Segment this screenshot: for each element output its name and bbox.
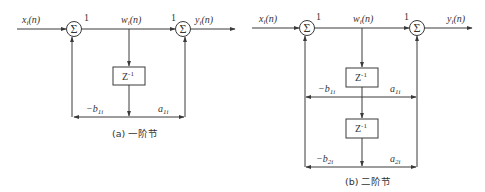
gain-left-a: 1 <box>84 12 89 23</box>
sum-symbol-2-a: Σ <box>180 22 187 36</box>
mid-label-b: wi(n) <box>353 13 374 26</box>
coef-a2-b: a2i <box>390 153 401 166</box>
sum-symbol-1-a: Σ <box>71 22 78 36</box>
first-order-section: xi(n) Σ 1 wi(n) 1 Σ yi(n) Z-1 −b1i a1i (… <box>17 12 235 139</box>
output-label-a: yi(n) <box>194 14 214 27</box>
gain-right-b: 1 <box>404 11 409 22</box>
coef-b2-b: −b2i <box>316 153 333 166</box>
caption-a: (a) 一阶节 <box>112 128 158 139</box>
coef-a1-b: a1i <box>390 83 401 96</box>
sum-symbol-1-b: Σ <box>304 21 311 35</box>
gain-right-a: 1 <box>171 12 176 23</box>
input-label-b: xi(n) <box>258 13 278 26</box>
coef-a-a: a1i <box>158 103 169 116</box>
caption-b: (b) 二阶节 <box>345 176 391 187</box>
sum-symbol-2-b: Σ <box>414 21 421 35</box>
diagram-canvas: xi(n) Σ 1 wi(n) 1 Σ yi(n) Z-1 −b1i a1i (… <box>0 0 485 192</box>
output-label-b: yi(n) <box>446 13 466 26</box>
second-order-section: xi(n) Σ 1 wi(n) 1 Σ yi(n) Z-1 −b1i a1i Z… <box>252 11 472 187</box>
input-label-a: xi(n) <box>21 14 41 27</box>
coef-b-a: −b1i <box>86 103 103 116</box>
mid-label-a: wi(n) <box>121 14 142 27</box>
coef-b1-b: −b1i <box>318 83 335 96</box>
gain-left-b: 1 <box>316 11 321 22</box>
